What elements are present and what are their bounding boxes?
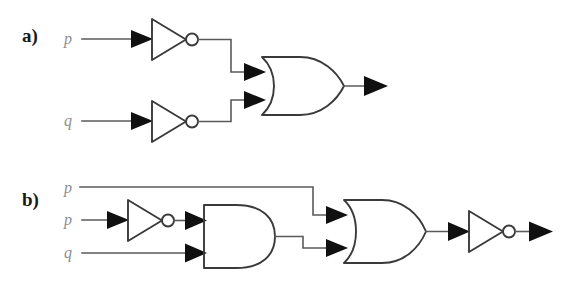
wire-p-top-to-or-b xyxy=(80,187,337,215)
not-gate-top-bubble-icon xyxy=(186,34,198,46)
output-arrow-a xyxy=(364,76,388,96)
or-gate-icon-b xyxy=(344,200,426,263)
logic-circuit-figure: a) p q b) p xyxy=(0,0,574,284)
part-label-a: a) xyxy=(22,25,38,47)
input-label-p-top-b: p xyxy=(63,179,72,197)
circuit-canvas: a) p q b) p xyxy=(0,0,574,284)
not-gate-output-bubble-icon-b xyxy=(503,226,515,238)
not-gate-bottom-icon xyxy=(152,101,186,142)
part-label-b: b) xyxy=(22,189,39,211)
arrowhead-not-output-input-b xyxy=(448,222,470,241)
not-gate-output-icon-b xyxy=(469,211,503,252)
arrowhead-not-top-input xyxy=(131,30,153,48)
arrowhead-not-bottom-input xyxy=(131,112,153,130)
output-arrow-b xyxy=(529,222,553,242)
not-gate-bottom-bubble-icon xyxy=(186,116,198,128)
or-gate-icon-a xyxy=(262,57,344,115)
not-gate-input-bubble-icon-b xyxy=(162,215,174,227)
input-label-p-a: p xyxy=(63,30,72,48)
arrowhead-or-input-top-b xyxy=(326,206,348,224)
arrowhead-or-input-bottom-a xyxy=(244,91,266,109)
not-gate-input-icon-b xyxy=(128,200,162,241)
input-label-q-a: q xyxy=(64,112,72,130)
and-gate-icon-b xyxy=(204,205,275,268)
arrowhead-or-input-top-a xyxy=(244,63,266,81)
not-gate-top-icon xyxy=(152,19,186,60)
input-label-p-middle-b: p xyxy=(63,211,72,229)
arrowhead-or-input-bottom-b xyxy=(326,239,348,257)
input-label-q-bottom-b: q xyxy=(64,244,72,262)
arrowhead-not-input-b xyxy=(107,211,129,229)
